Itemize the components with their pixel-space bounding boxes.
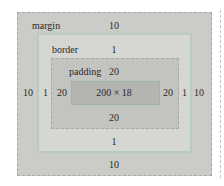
border-label: border xyxy=(52,44,78,56)
margin-right-value: 10 xyxy=(194,87,204,99)
border-left-value: 1 xyxy=(43,87,48,99)
content-size-value: 200 × 18 xyxy=(96,87,132,99)
padding-right-value: 20 xyxy=(163,87,173,99)
padding-left-value: 20 xyxy=(57,87,67,99)
padding-top-value: 20 xyxy=(109,66,119,78)
border-right-value: 1 xyxy=(182,87,187,99)
adjacent-element-edge xyxy=(220,10,221,178)
border-bottom-value: 1 xyxy=(112,136,117,148)
margin-top-value: 10 xyxy=(109,20,119,32)
border-top-value: 1 xyxy=(112,44,117,56)
padding-label: padding xyxy=(69,66,101,78)
padding-bottom-value: 20 xyxy=(109,112,119,124)
margin-label: margin xyxy=(32,20,60,32)
margin-bottom-value: 10 xyxy=(109,159,119,171)
margin-left-value: 10 xyxy=(23,87,33,99)
